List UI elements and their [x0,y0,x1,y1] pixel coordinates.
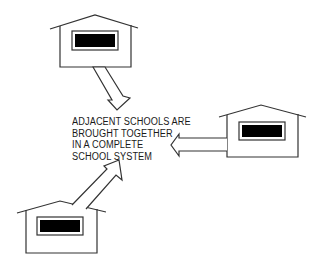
roof-icon [50,15,138,29]
window-pane [40,220,80,232]
caption-line-2: BROUGHT TOGETHER [72,128,191,140]
caption-line-3: IN A COMPLETE [72,139,191,151]
diagram-caption: ADJACENT SCHOOLS ARE BROUGHT TOGETHER IN… [72,116,191,162]
window-pane [242,125,282,137]
caption-line-1: ADJACENT SCHOOLS ARE [72,116,191,128]
school-right [219,105,306,157]
roof-icon [17,201,106,213]
arrow-down-right-icon [93,67,130,110]
school-bottom [17,201,106,253]
window-pane [75,34,115,47]
roof-icon [219,105,306,117]
arrow-up-right-icon [72,160,122,209]
school-top [50,15,138,67]
caption-line-4: SCHOOL SYSTEM [72,151,191,163]
